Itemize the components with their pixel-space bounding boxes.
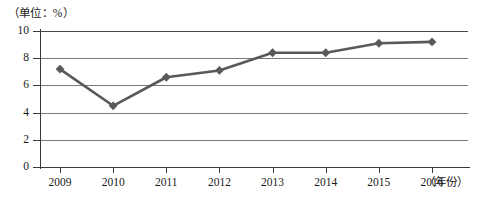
x-axis-label: 2009 bbox=[37, 176, 83, 188]
x-axis-tick bbox=[219, 167, 220, 173]
x-axis-tick bbox=[273, 167, 274, 173]
y-axis-tick bbox=[33, 85, 41, 86]
data-point-marker bbox=[428, 37, 437, 46]
x-axis-tick bbox=[60, 167, 61, 173]
y-axis-label: 2 bbox=[3, 134, 29, 146]
y-axis-tick bbox=[33, 31, 41, 32]
line-chart: （单位：%） （年份） 0246810200920102011201220132… bbox=[0, 0, 477, 199]
y-axis-tick bbox=[33, 113, 41, 114]
data-point-marker bbox=[321, 48, 330, 57]
y-axis-label: 0 bbox=[3, 161, 29, 173]
x-axis-tick bbox=[166, 167, 167, 173]
y-axis-tick bbox=[33, 58, 41, 59]
x-axis-label: 2012 bbox=[196, 176, 242, 188]
series-line bbox=[60, 42, 432, 106]
y-axis-label: 10 bbox=[3, 25, 29, 37]
x-axis-tick bbox=[379, 167, 380, 173]
data-point-marker bbox=[374, 39, 383, 48]
x-axis-label: 2016 bbox=[409, 176, 455, 188]
x-axis-label: 2015 bbox=[356, 176, 402, 188]
x-axis-label: 2010 bbox=[90, 176, 136, 188]
x-axis-label: 2014 bbox=[303, 176, 349, 188]
series-layer bbox=[0, 0, 477, 199]
data-point-marker bbox=[215, 66, 224, 75]
y-axis-label: 4 bbox=[3, 107, 29, 119]
x-axis-label: 2011 bbox=[143, 176, 189, 188]
data-point-marker bbox=[268, 48, 277, 57]
x-axis-tick bbox=[326, 167, 327, 173]
x-axis-tick bbox=[113, 167, 114, 173]
x-axis-label: 2013 bbox=[250, 176, 296, 188]
y-axis-tick bbox=[33, 167, 41, 168]
y-axis-label: 8 bbox=[3, 52, 29, 64]
x-axis-tick bbox=[432, 167, 433, 173]
y-axis-tick bbox=[33, 140, 41, 141]
y-axis-label: 6 bbox=[3, 79, 29, 91]
